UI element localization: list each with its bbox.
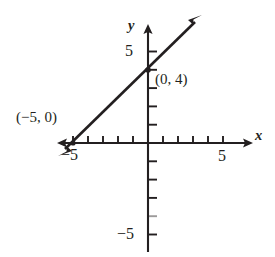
x-tick-label-5: 5 [218,148,226,164]
graph-canvas [0,0,275,257]
y-tick-label-neg5: −5 [117,226,134,242]
y-intercept-annotation: (0, 4) [155,72,188,87]
x-axis-group [57,136,253,147]
x-axis-name-label: x [255,128,262,143]
y-axis-group [143,24,157,252]
coordinate-plane-figure: y x 5 −5 5 −5 (0, 4) (−5, 0) [0,0,275,257]
x-intercept-annotation: (−5, 0) [16,110,57,125]
y-axis-name-label: y [128,18,134,33]
y-intercept-point [145,67,151,73]
x-intercept-point [70,140,75,145]
y-tick-label-5: 5 [125,43,133,59]
x-tick-label-neg5: −5 [61,147,78,163]
